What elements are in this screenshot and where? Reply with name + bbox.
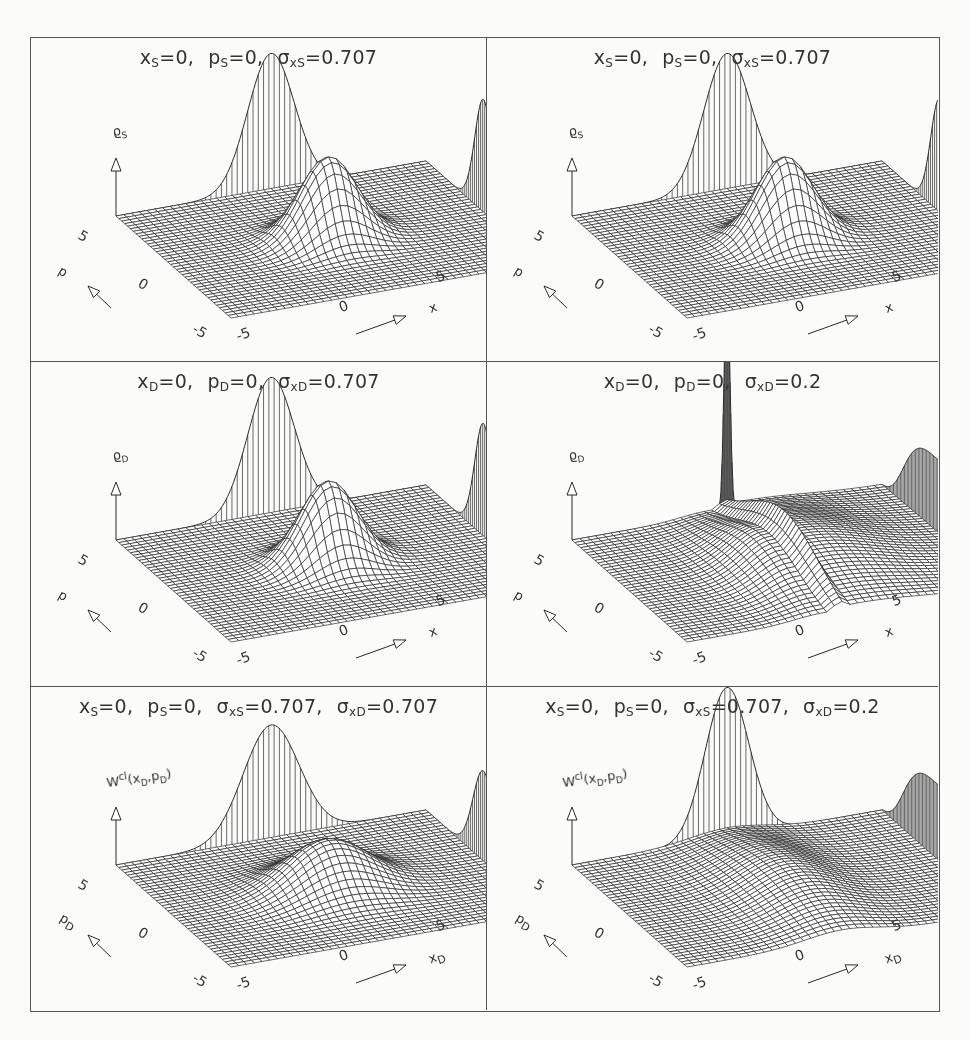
panel-bottom-left: xS=0,pS=0,σxS=0.707,σxD=0.707Wcl(xD,pD)5…: [31, 686, 486, 1010]
surface-plot: [487, 38, 938, 361]
surface-plot: [31, 38, 486, 361]
z-axis-label: ϱS: [568, 122, 584, 141]
z-axis-label: ϱD: [112, 446, 130, 466]
surface-plot: [31, 362, 486, 686]
surface-plot: [487, 362, 938, 686]
panel-top-right: xS=0,pS=0,σxS=0.707ϱS50-5-505xp: [486, 38, 938, 361]
figure-frame: xS=0,pS=0,σxS=0.707ϱS50-5-505xp xS=0,pS=…: [30, 37, 940, 1012]
surface-plot: [31, 687, 486, 1010]
z-axis-label: ϱS: [112, 122, 128, 141]
panel-middle-left: xD=0,pD=0,σxD=0.707ϱD50-5-505xp: [31, 361, 486, 686]
z-axis-label: ϱD: [568, 446, 586, 466]
panel-middle-right: xD=0,pD=0,σxD=0.2ϱD50-5-505xp: [486, 361, 938, 686]
panel-top-left: xS=0,pS=0,σxS=0.707ϱS50-5-505xp: [31, 38, 486, 361]
panel-bottom-right: xS=0,pS=0,σxS=0.707,σxD=0.2Wcl(xD,pD)50-…: [486, 686, 938, 1010]
surface-plot: [487, 687, 938, 1010]
